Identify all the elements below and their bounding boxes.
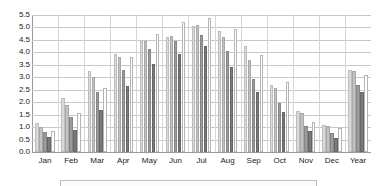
bar — [218, 31, 221, 152]
bar — [196, 25, 199, 152]
y-axis-tick-label: 0.0 — [2, 148, 30, 156]
x-axis-tick-label: Oct — [267, 156, 293, 170]
bar — [360, 92, 363, 152]
x-axis-tick-label: Aug — [215, 156, 241, 170]
bar — [69, 117, 72, 152]
y-axis-tick-labels: 5.55.04.54.03.53.02.52.01.51.00.50.0 — [0, 15, 30, 152]
bar — [322, 125, 325, 152]
bar — [61, 98, 64, 152]
y-axis-tick-label: 3.0 — [2, 73, 30, 81]
x-axis-line — [32, 152, 371, 153]
bar — [270, 85, 273, 152]
bar — [260, 55, 263, 152]
bar — [222, 37, 225, 152]
bar — [166, 37, 169, 152]
bar — [92, 77, 95, 152]
bar — [43, 132, 46, 152]
bar-group — [84, 15, 110, 152]
bar — [338, 128, 341, 152]
x-axis-tick-label: Jun — [162, 156, 188, 170]
bar — [114, 54, 117, 152]
bar — [51, 131, 54, 152]
bar — [35, 123, 38, 152]
bar — [252, 79, 255, 152]
bar — [356, 85, 359, 152]
x-axis-tick-label: Dec — [319, 156, 345, 170]
x-axis-tick-label: Feb — [58, 156, 84, 170]
bar — [334, 138, 337, 152]
y-axis-tick-label: 1.5 — [2, 111, 30, 119]
y-axis-tick-label: 5.5 — [2, 11, 30, 19]
bar-group — [345, 15, 371, 152]
bar — [152, 64, 155, 152]
bar — [296, 111, 299, 152]
bar — [182, 22, 185, 152]
bar — [244, 46, 247, 152]
bar-group — [136, 15, 162, 152]
bar — [200, 35, 203, 152]
x-axis-tick-labels: JanFebMarAprMayJunJulAugSepOctNovDecYear — [32, 156, 371, 170]
bar — [118, 57, 121, 152]
bar — [65, 105, 68, 152]
bar — [304, 126, 307, 152]
bar — [230, 67, 233, 152]
bar-chart: 5.55.04.54.03.53.02.52.01.51.00.50.0 Jan… — [0, 0, 379, 186]
plot-area — [32, 15, 371, 152]
bar — [300, 113, 303, 152]
bar — [174, 41, 177, 152]
x-axis-tick-label: Mar — [84, 156, 110, 170]
bar — [286, 82, 289, 152]
bar-groups — [32, 15, 371, 152]
bar — [248, 60, 251, 152]
bar — [308, 131, 311, 152]
y-axis-tick-label: 4.0 — [2, 48, 30, 56]
y-axis-tick-label: 3.5 — [2, 61, 30, 69]
bar — [282, 112, 285, 152]
x-axis-tick-label: Sep — [241, 156, 267, 170]
bar-group — [188, 15, 214, 152]
bar-group — [215, 15, 241, 152]
bar-group — [293, 15, 319, 152]
bar — [312, 122, 315, 152]
bar — [352, 71, 355, 152]
bar-group — [32, 15, 58, 152]
y-axis-tick-label: 1.0 — [2, 123, 30, 131]
y-axis-tick-label: 0.5 — [2, 136, 30, 144]
x-axis-tick-label: May — [136, 156, 162, 170]
bar — [140, 41, 143, 152]
bar — [192, 26, 195, 152]
bar — [73, 130, 76, 152]
bar-group — [241, 15, 267, 152]
bar — [178, 54, 181, 152]
bar-group — [319, 15, 345, 152]
x-axis-tick-label: Jan — [32, 156, 58, 170]
bar — [256, 92, 259, 152]
x-axis-tick-label: Jul — [188, 156, 214, 170]
bar — [326, 126, 329, 152]
bar — [274, 88, 277, 152]
bar — [330, 133, 333, 152]
bar-group — [58, 15, 84, 152]
x-axis-tick-label: Apr — [110, 156, 136, 170]
bar — [144, 41, 147, 152]
bar — [88, 71, 91, 152]
x-axis-tick-label: Nov — [293, 156, 319, 170]
bar-group — [267, 15, 293, 152]
bar-group — [162, 15, 188, 152]
bar — [170, 36, 173, 152]
bar — [234, 29, 237, 152]
bar — [99, 110, 102, 152]
bar — [103, 88, 106, 152]
y-axis-tick-label: 5.0 — [2, 23, 30, 31]
bar — [96, 92, 99, 152]
y-axis-tick-label: 4.5 — [2, 36, 30, 44]
bar — [226, 51, 229, 152]
y-axis-tick-label: 2.0 — [2, 98, 30, 106]
y-axis-tick-label: 2.5 — [2, 86, 30, 94]
bar — [278, 103, 281, 152]
bar — [156, 34, 159, 152]
bar — [130, 57, 133, 152]
bar — [204, 46, 207, 152]
bar — [148, 49, 151, 152]
bar — [39, 127, 42, 152]
